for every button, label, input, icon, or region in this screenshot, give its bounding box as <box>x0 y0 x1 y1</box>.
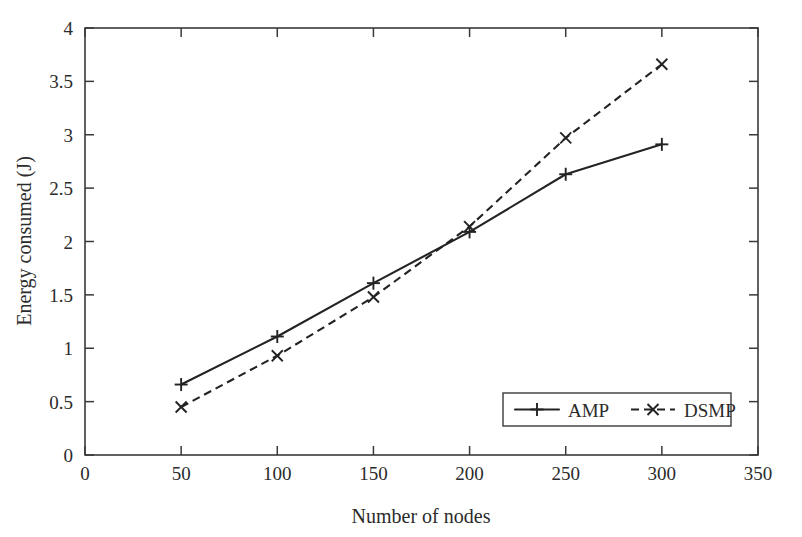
y-tick-label-1: 1 <box>64 338 74 359</box>
x-tick-label-150: 150 <box>359 463 388 484</box>
y-tick-label-1.5: 1.5 <box>49 285 73 306</box>
x-tick-label-200: 200 <box>455 463 484 484</box>
y-axis-ticks <box>85 28 758 455</box>
data-point-dsmp-150 <box>368 292 379 303</box>
y-tick-label-4: 4 <box>64 18 74 39</box>
data-point-amp-150 <box>367 277 380 290</box>
x-tick-label-0: 0 <box>80 463 90 484</box>
data-point-dsmp-250 <box>560 132 571 143</box>
y-axis-tick-labels: 00.511.522.533.54 <box>49 18 73 466</box>
x-tick-label-350: 350 <box>744 463 773 484</box>
chart-legend: AMPDSMP <box>503 393 736 426</box>
data-point-dsmp-300 <box>656 59 667 70</box>
data-series-layer <box>175 59 669 413</box>
y-tick-label-3.5: 3.5 <box>49 71 73 92</box>
data-point-amp-100 <box>271 330 284 343</box>
series-line-amp <box>181 144 662 384</box>
axis-frame-rect <box>85 28 758 455</box>
series-markers-amp <box>175 138 669 391</box>
x-tick-label-300: 300 <box>648 463 677 484</box>
x-axis-tick-labels: 050100150200250300350 <box>80 463 772 484</box>
data-point-amp-300 <box>655 138 668 151</box>
x-tick-label-100: 100 <box>263 463 292 484</box>
legend-label-amp: AMP <box>568 400 609 421</box>
figure-container: 050100150200250300350 00.511.522.533.54 … <box>0 0 802 537</box>
data-point-amp-50 <box>175 378 188 391</box>
line-chart: 050100150200250300350 00.511.522.533.54 … <box>0 0 802 537</box>
x-tick-label-50: 50 <box>172 463 191 484</box>
x-tick-label-250: 250 <box>551 463 580 484</box>
data-point-amp-250 <box>559 168 572 181</box>
y-tick-label-0.5: 0.5 <box>49 392 73 413</box>
y-tick-label-2.5: 2.5 <box>49 178 73 199</box>
y-tick-label-0: 0 <box>64 445 74 466</box>
data-point-dsmp-50 <box>176 401 187 412</box>
plot-frame <box>85 28 758 455</box>
y-axis-title: Energy consumed (J) <box>13 156 36 326</box>
series-markers-dsmp <box>176 59 668 413</box>
y-tick-label-3: 3 <box>64 125 74 146</box>
series-line-dsmp <box>181 64 662 407</box>
x-axis-ticks <box>85 28 758 455</box>
y-tick-label-2: 2 <box>64 232 74 253</box>
legend-label-dsmp: DSMP <box>684 400 736 421</box>
x-axis-title: Number of nodes <box>352 505 491 527</box>
data-point-dsmp-100 <box>272 350 283 361</box>
